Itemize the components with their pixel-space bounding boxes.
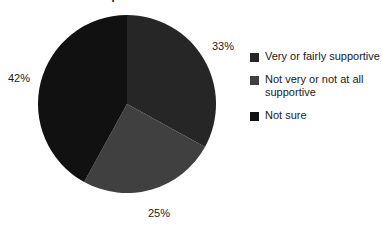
legend-label-not-sure: Not sure (265, 109, 307, 123)
legend-label-very-or-fairly-supportive: Very or fairly supportive (265, 50, 380, 64)
legend-swatch-icon-not-very-or-not-at-all-supportive (250, 76, 259, 85)
legend-item-not-very-or-not-at-all-supportive[interactable]: Not very or not at all supportive (250, 73, 382, 100)
pie-svg (0, 0, 238, 230)
slice-value-label-not-very-or-not-at-all-supportive: 25% (148, 207, 170, 219)
legend-item-not-sure[interactable]: Not sure (250, 109, 382, 123)
slice-value-label-not-sure: 42% (8, 72, 30, 84)
legend-swatch-icon-very-or-fairly-supportive (250, 53, 259, 62)
legend-swatch-icon-not-sure (250, 112, 259, 121)
chart-legend: Very or fairly supportive Not very or no… (250, 50, 382, 131)
legend-item-very-or-fairly-supportive[interactable]: Very or fairly supportive (250, 50, 382, 64)
pie-chart: respondents based on Shariah Law 33% 42%… (0, 0, 382, 230)
pie-plot-area: 33% 42% 25% (0, 0, 238, 230)
legend-label-not-very-or-not-at-all-supportive: Not very or not at all supportive (265, 73, 382, 100)
slice-value-label-very-or-fairly-supportive: 33% (212, 40, 234, 52)
